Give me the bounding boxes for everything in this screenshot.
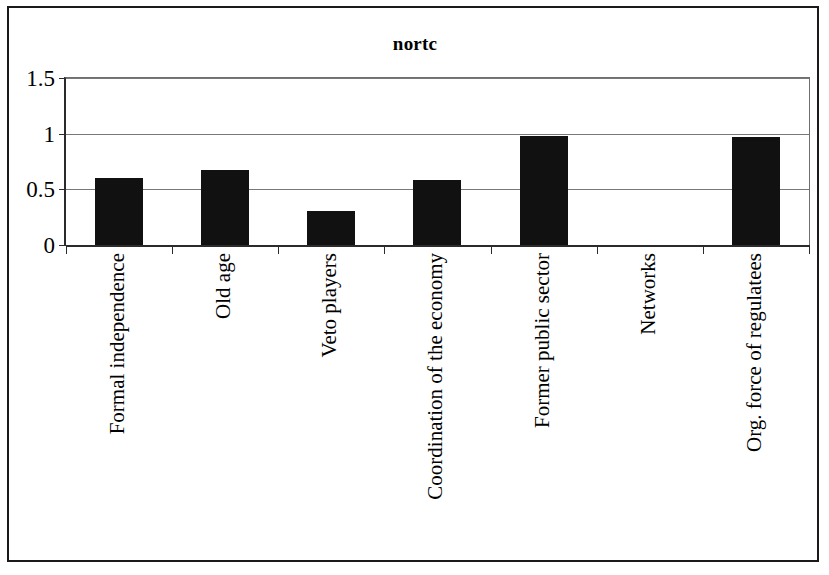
x-label-slot: Formal independence: [64, 253, 170, 553]
y-axis-label: 0.5: [26, 178, 55, 201]
x-axis-category-label: Old age: [213, 253, 234, 319]
x-axis-category-label: Coordination of the economy: [425, 253, 446, 500]
y-axis-label: 1: [44, 122, 56, 145]
bar[interactable]: [201, 170, 249, 245]
x-label-slot: Veto players: [276, 253, 382, 553]
x-axis-category-label: Formal independence: [107, 253, 128, 434]
y-tick-mark: [59, 78, 66, 79]
x-axis-category-label: Veto players: [319, 253, 340, 357]
plot-area: 00.511.5: [64, 77, 810, 245]
x-axis-category-label: Org. force of regulatees: [743, 253, 764, 452]
chart-title: nortc: [9, 34, 821, 53]
bar[interactable]: [732, 137, 780, 245]
x-label-slot: Networks: [595, 253, 701, 553]
bar-slot: [703, 78, 809, 245]
x-axis-category-label: Networks: [637, 253, 658, 335]
x-label-slot: Former public sector: [489, 253, 595, 553]
bar-slot: [491, 78, 597, 245]
figure-frame: nortc 00.511.5 Formal independenceOld ag…: [7, 6, 819, 562]
y-tick-mark: [59, 245, 66, 246]
y-tick-mark: [59, 189, 66, 190]
x-label-slot: Coordination of the economy: [382, 253, 488, 553]
bar[interactable]: [95, 178, 143, 245]
x-axis-labels-group: Formal independenceOld ageVeto playersCo…: [64, 253, 807, 553]
bar-slot: [172, 78, 278, 245]
y-axis-label: 0: [44, 234, 56, 257]
bar[interactable]: [520, 136, 568, 245]
bar-slot: [384, 78, 490, 245]
x-axis-category-label: Former public sector: [531, 253, 552, 428]
y-axis-label: 1.5: [26, 67, 55, 90]
bar[interactable]: [413, 180, 461, 245]
x-label-slot: Org. force of regulatees: [701, 253, 807, 553]
bar-slot: [278, 78, 384, 245]
y-tick-mark: [59, 134, 66, 135]
x-label-slot: Old age: [170, 253, 276, 553]
gridline-0: [66, 245, 809, 247]
bar-slot: [597, 78, 703, 245]
bar-slot: [66, 78, 172, 245]
x-tick-mark: [809, 245, 810, 254]
bar[interactable]: [307, 211, 355, 246]
bars-group: [66, 78, 809, 245]
